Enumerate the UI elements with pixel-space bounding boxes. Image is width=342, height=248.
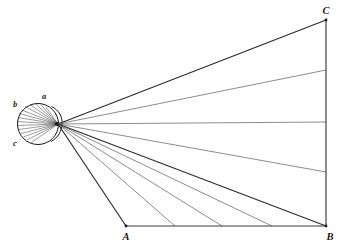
retinal-ray-9 (24, 124, 59, 137)
ray-to-C (58, 20, 326, 124)
retinal-ray-14 (41, 105, 58, 124)
ray-to-plane-4 (58, 124, 326, 172)
label-C: C (322, 5, 330, 16)
ray-to-plane-2 (58, 70, 326, 124)
ray-to-plane-3 (58, 122, 326, 124)
ray-to-base-4 (58, 124, 272, 226)
ray-diagram-svg: a b c A B C (0, 0, 342, 248)
ray-to-base-2 (58, 124, 175, 226)
vertex-B-marker (325, 225, 328, 228)
figure-container: a b c A B C (0, 0, 342, 248)
label-c: c (13, 138, 17, 148)
ray-to-B (58, 124, 326, 226)
ray-to-base-3 (58, 124, 222, 226)
lower-ray-fan (58, 124, 326, 226)
label-a: a (42, 91, 47, 101)
vertex-C-marker (325, 19, 328, 22)
vertex-A-marker (125, 225, 128, 228)
label-B: B (325, 231, 333, 242)
label-A: A (121, 231, 129, 242)
ray-to-A (58, 124, 126, 226)
label-b: b (13, 99, 17, 109)
